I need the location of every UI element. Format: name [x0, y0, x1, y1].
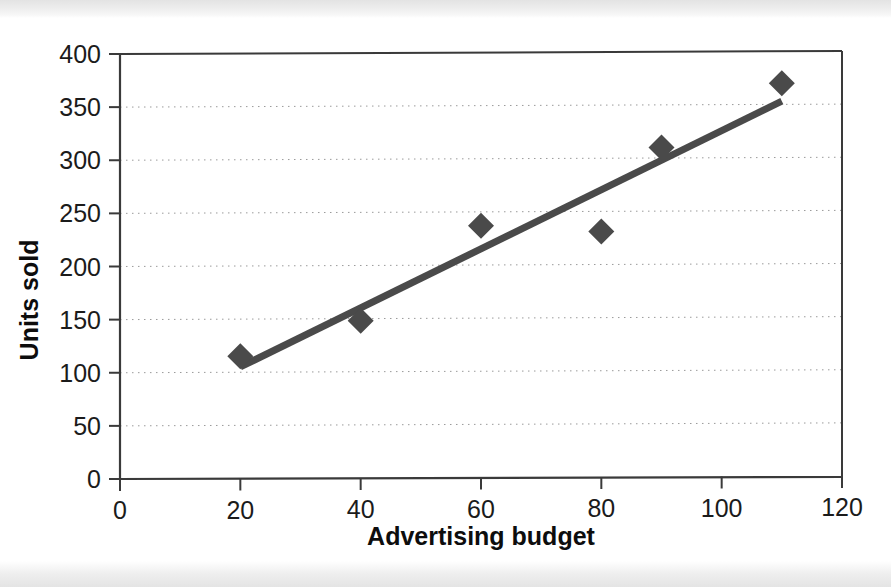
x-axis-tick-label-80: 80: [587, 494, 615, 522]
y-axis-tick-label-300: 300: [59, 146, 101, 174]
chart-canvas: 050100150200250300350400 020406080100120…: [0, 0, 891, 587]
x-axis-tick-label-100: 100: [701, 494, 743, 522]
scatter-chart-figure: 050100150200250300350400 020406080100120…: [0, 0, 891, 587]
y-axis-tick-label-100: 100: [59, 359, 101, 387]
y-axis-title: Units sold: [15, 240, 43, 361]
y-axis-tick-labels-group: 050100150200250300350400: [59, 40, 101, 493]
y-axis-tick-label-150: 150: [59, 306, 101, 334]
x-axis-tick-label-20: 20: [226, 496, 254, 524]
x-axis-tick-labels-group: 020406080100120: [113, 493, 863, 524]
y-axis-ticks-group: [109, 54, 120, 479]
x-axis-tick-label-40: 40: [347, 495, 375, 523]
x-axis-tick-label-120: 120: [821, 493, 863, 521]
y-axis-tick-label-200: 200: [59, 253, 101, 281]
y-axis-tick-label-350: 350: [59, 93, 101, 121]
y-axis-tick-label-0: 0: [87, 465, 101, 493]
x-axis-tick-label-0: 0: [113, 496, 127, 524]
x-axis-tick-label-60: 60: [467, 495, 495, 523]
y-axis-tick-label-250: 250: [59, 199, 101, 227]
y-axis-tick-label-50: 50: [73, 412, 101, 440]
y-axis-tick-label-400: 400: [59, 40, 101, 68]
x-axis-title: Advertising budget: [367, 522, 595, 550]
